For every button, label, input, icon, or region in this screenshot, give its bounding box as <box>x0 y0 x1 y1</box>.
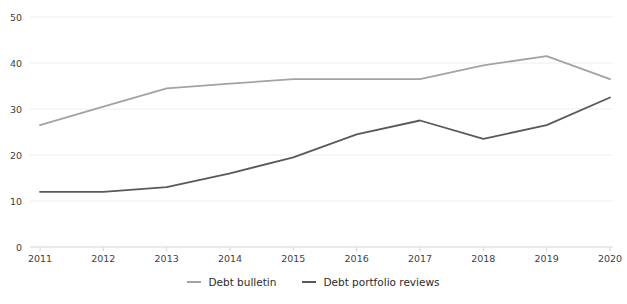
x-axis-tick-label: 2015 <box>281 253 305 264</box>
chart-legend: Debt bulletin Debt portfolio reviews <box>0 276 627 288</box>
y-axis-tick-label: 10 <box>10 196 22 207</box>
series-line-debt-bulletin <box>40 56 610 125</box>
line-chart: 0102030405020112012201320142015201620172… <box>0 0 627 304</box>
x-axis-tick-label: 2020 <box>598 253 622 264</box>
debt-bulletin-line-swatch <box>187 281 201 283</box>
y-axis-tick-label: 50 <box>10 12 22 23</box>
legend-label-debt-portfolio-reviews: Debt portfolio reviews <box>323 276 439 288</box>
x-axis-tick-label: 2017 <box>408 253 432 264</box>
x-axis-tick-label: 2014 <box>218 253 242 264</box>
plot-area: 0102030405020112012201320142015201620172… <box>0 0 627 270</box>
x-axis-tick-label: 2011 <box>28 253 52 264</box>
legend-label-debt-bulletin: Debt bulletin <box>208 276 276 288</box>
legend-item-debt-bulletin: Debt bulletin <box>187 276 276 288</box>
x-axis-tick-label: 2012 <box>91 253 115 264</box>
legend-item-debt-portfolio-reviews: Debt portfolio reviews <box>302 276 439 288</box>
y-axis-tick-label: 0 <box>16 242 22 253</box>
series-line-debt-portfolio-reviews <box>40 98 610 192</box>
y-axis-tick-label: 40 <box>10 58 22 69</box>
y-axis-tick-label: 30 <box>10 104 22 115</box>
x-axis-tick-label: 2016 <box>345 253 369 264</box>
x-axis-tick-label: 2018 <box>471 253 495 264</box>
x-axis-tick-label: 2019 <box>535 253 559 264</box>
debt-portfolio-reviews-line-swatch <box>302 281 316 283</box>
x-axis-tick-label: 2013 <box>155 253 179 264</box>
y-axis-tick-label: 20 <box>10 150 22 161</box>
